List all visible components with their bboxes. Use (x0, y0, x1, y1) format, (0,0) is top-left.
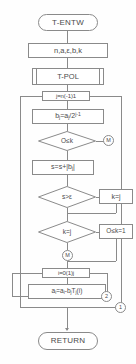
connector-two: 2 (101, 291, 112, 302)
decision-zero-k: O≤k (38, 131, 96, 151)
decision-k-equals-j: k=j (38, 221, 96, 243)
loop-inner-rail-left (12, 273, 13, 297)
loop-inner-rail-top-left (12, 273, 42, 274)
connector-two-label: 2 (105, 294, 108, 300)
subroutine-box-tpol: T-POL (32, 68, 104, 85)
assign-a-eq: =a (56, 287, 63, 294)
assign-a-box: ai=ai-bjTj(i) (28, 284, 106, 299)
edge-merge-after-s-decision (67, 213, 116, 214)
edge-to-return (67, 307, 68, 330)
assign-b-box: bj=aj/2j-1 (32, 109, 104, 124)
return-terminal: RETURN (38, 332, 98, 350)
accumulate-s-box: s=s+|bj| (32, 160, 94, 175)
loop-box-inner: i=0(1)j (42, 268, 90, 278)
accumulate-s-expr: s=s+|b (51, 163, 72, 170)
assign-a-arg: (i) (77, 287, 83, 294)
assign-k-equals-j-label: k=j (111, 193, 120, 200)
edge-assign-k-down (116, 204, 117, 213)
start-terminal-label: T-ENTW (52, 19, 84, 27)
assign-b-label: bj=aj/2j-1 (55, 112, 81, 120)
flowchart-canvas: T-ENTW n,a,ε,b,k T-POL j=n(-1)1 bj=aj/2j… (0, 0, 136, 364)
loop-box-outer: j=n(-1)1 (42, 91, 90, 101)
connector-one: 1 (115, 302, 126, 313)
loop-box-inner-label: i=0(1)j (58, 270, 74, 276)
edge-assign-b-to-decision-zero-k (67, 124, 68, 131)
edge-connector-m2-to-loop-inner (67, 261, 68, 268)
connector-m-right-label: M (106, 138, 111, 144)
connector-m-merge: M (62, 250, 73, 261)
input-box: n,a,ε,b,k (28, 43, 108, 58)
loop-outer-rail-left (20, 96, 21, 308)
connector-m-merge-label: M (65, 253, 70, 259)
assign-k-equals-j-box: k=j (99, 189, 133, 204)
input-box-label: n,a,ε,b,k (54, 47, 82, 55)
arrow-to-return (65, 328, 69, 331)
start-terminal: T-ENTW (38, 14, 98, 31)
loop-inner-rail-top-right (90, 273, 108, 274)
decision-s-greater-eps-label: s>ε (62, 194, 72, 201)
decision-k-equals-j-label: k=j (63, 229, 72, 236)
assign-a-label: ai=ai-bjTj(i) (52, 288, 83, 296)
assign-zero-k-label: O≤k=1 (106, 228, 125, 235)
connector-one-label: 1 (119, 305, 122, 311)
edge-decision-kj-down (67, 243, 68, 250)
subroutine-box-label: T-POL (57, 73, 79, 81)
decision-s-greater-eps: s>ε (38, 186, 96, 208)
edge-decision-zero-k-to-accumulate (67, 151, 68, 160)
accumulate-s-end: | (73, 163, 75, 170)
assign-zero-k-box: O≤k=1 (99, 224, 133, 239)
edge-merge-to-decision-k-j (67, 213, 68, 221)
loop-outer-rail-top-right (90, 96, 122, 97)
return-terminal-label: RETURN (51, 337, 86, 345)
edge-accumulate-to-decision-s-eps (67, 175, 68, 186)
loop-outer-rail-top-left (20, 96, 42, 97)
connector-m-right: M (103, 135, 114, 146)
loop-box-outer-label: j=n(-1)1 (56, 93, 76, 99)
decision-zero-k-label: O≤k (61, 138, 73, 145)
accumulate-s-label: s=s+|bj| (51, 163, 75, 171)
edge-assign-zero-k-down (116, 239, 117, 261)
edge-input-to-subroutine (67, 58, 68, 68)
edge-loop-outer-to-assign-b (67, 101, 68, 109)
assign-b-exp: j-1 (75, 112, 81, 118)
loop-outer-rail-bottom (20, 307, 121, 308)
edge-merge-to-connector-m2 (67, 261, 116, 262)
edge-start-to-input (67, 31, 68, 43)
